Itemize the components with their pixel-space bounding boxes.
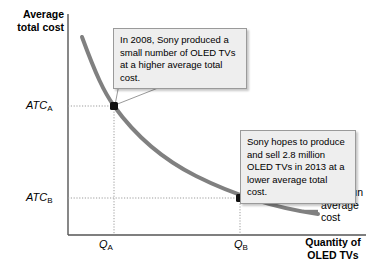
x-tick-q-a-subscript: A xyxy=(108,243,113,252)
data-point-a xyxy=(110,102,118,110)
cost-curve-figure: Average total cost Quantity of OLED TVs … xyxy=(0,0,377,268)
x-axis-title: Quantity of OLED TVs xyxy=(293,236,373,261)
x-tick-q-b-subscript: B xyxy=(243,243,248,252)
y-tick-atc-a-subscript: A xyxy=(47,104,52,113)
y-tick-atc-a-base: ATC xyxy=(26,99,47,111)
callout-box-2008: In 2008, Sony produced a small number of… xyxy=(113,28,247,89)
x-tick-label-q-a: QA xyxy=(99,238,113,250)
y-axis-title: Average total cost xyxy=(6,8,64,33)
y-tick-label-atc-a: ATCA xyxy=(26,99,53,111)
y-tick-label-atc-b: ATCB xyxy=(26,191,53,203)
y-tick-atc-b-base: ATC xyxy=(26,191,47,203)
y-tick-atc-b-subscript: B xyxy=(47,196,52,205)
x-tick-label-q-b: QB xyxy=(234,238,248,250)
x-tick-q-b-base: Q xyxy=(234,238,243,250)
callout-box-2013: Sony hopes to produce and sell 2.8 milli… xyxy=(240,130,356,204)
x-tick-q-a-base: Q xyxy=(99,238,108,250)
